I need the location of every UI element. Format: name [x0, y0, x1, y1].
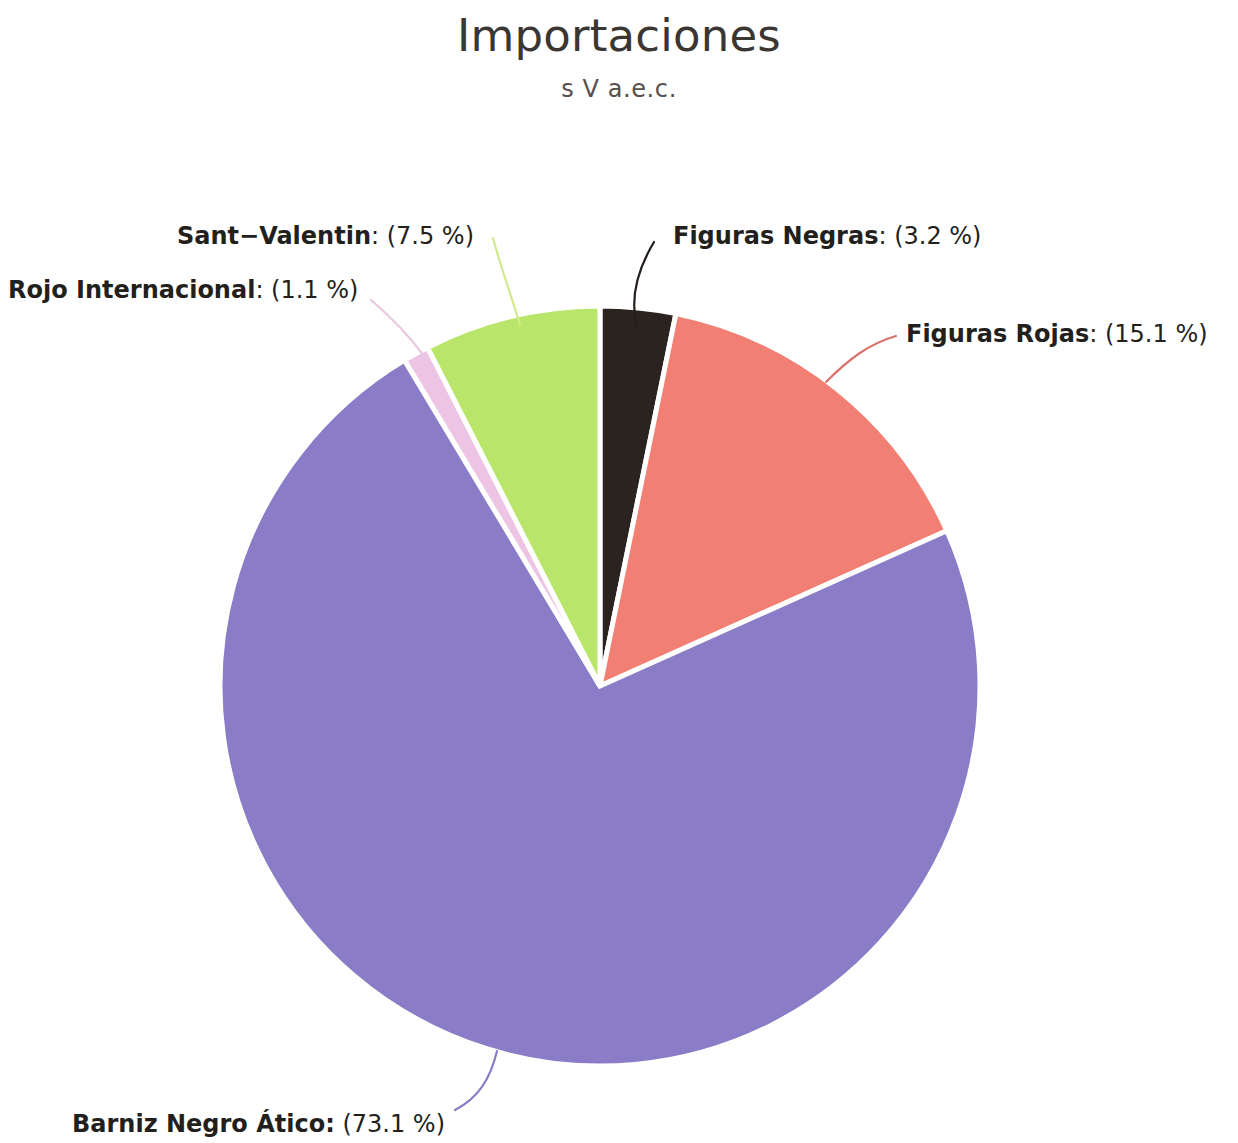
pie-label-sant-valentin-sep: :	[371, 222, 387, 250]
pie-label-sant-valentin: Sant−Valentin: (7.5 %)	[177, 222, 474, 250]
pie-label-figuras-rojas-name: Figuras Rojas	[906, 320, 1089, 348]
pie-label-figuras-negras-sep: :	[878, 222, 894, 250]
pie-label-barniz-negro-atico: Barniz Negro Ático: (73.1 %)	[72, 1110, 445, 1138]
pie-svg	[0, 0, 1238, 1143]
pie-label-rojo-internacional-sep: :	[255, 276, 271, 304]
pie-label-figuras-rojas-sep: :	[1089, 320, 1105, 348]
pie-label-figuras-negras-name: Figuras Negras	[673, 222, 878, 250]
leader-line-sant-valentin	[493, 238, 520, 325]
pie-chart-figure: Importaciones s V a.e.c. Sant−Valentin: …	[0, 0, 1238, 1143]
pie-label-sant-valentin-value: (7.5 %)	[387, 222, 474, 250]
pie-label-figuras-rojas: Figuras Rojas: (15.1 %)	[906, 320, 1208, 348]
leader-line-barniz-negro-atico	[455, 1051, 497, 1110]
pie-label-figuras-negras-value: (3.2 %)	[894, 222, 981, 250]
pie-slices-group	[220, 306, 980, 1066]
pie-label-figuras-rojas-value: (15.1 %)	[1105, 320, 1208, 348]
pie-label-barniz-negro-atico-name: Barniz Negro Ático:	[72, 1110, 335, 1138]
pie-label-barniz-negro-atico-value: (73.1 %)	[342, 1110, 445, 1138]
pie-label-figuras-negras: Figuras Negras: (3.2 %)	[673, 222, 981, 250]
pie-label-rojo-internacional-value: (1.1 %)	[271, 276, 358, 304]
pie-label-sant-valentin-name: Sant−Valentin	[177, 222, 371, 250]
leader-line-figuras-rojas	[826, 336, 896, 382]
pie-label-rojo-internacional: Rojo Internacional: (1.1 %)	[8, 276, 358, 304]
pie-label-rojo-internacional-name: Rojo Internacional	[8, 276, 255, 304]
leader-line-rojo-internacional	[371, 300, 424, 356]
